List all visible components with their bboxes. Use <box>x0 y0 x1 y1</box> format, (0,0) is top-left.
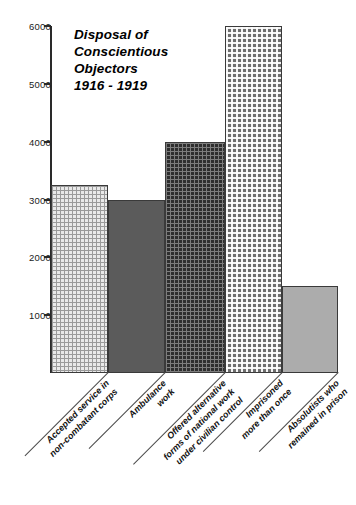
bar-4 <box>225 26 282 373</box>
plot-area <box>51 26 338 373</box>
y-tick-mark <box>44 25 51 27</box>
bar-2 <box>108 200 165 374</box>
bar-5 <box>282 286 338 373</box>
category-label-line: Accepted service in <box>39 378 112 451</box>
bar-3 <box>165 142 225 373</box>
y-tick-mark <box>44 141 51 143</box>
bar-chart: 100020003000400050006000 Disposal ofCons… <box>0 0 356 505</box>
y-tick-mark <box>44 199 51 201</box>
category-label-1: Accepted service innon-combatant corps <box>39 378 121 460</box>
y-tick-mark <box>44 314 51 316</box>
y-tick-mark <box>44 83 51 85</box>
x-axis-category-labels: Accepted service innon-combatant corpsAm… <box>0 372 356 505</box>
category-label-2: Ambulancework <box>127 378 178 429</box>
bar-1 <box>51 185 108 373</box>
y-tick-mark <box>44 256 51 258</box>
